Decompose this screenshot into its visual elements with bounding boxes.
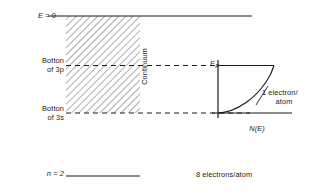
- n-equals-2-label: n = 2: [20, 169, 64, 178]
- fermi-level-label: EF: [195, 59, 219, 70]
- bottom-3s-line1: Botton: [42, 104, 64, 113]
- continuum-hatched-band: [66, 16, 140, 113]
- one-electron-per-atom-label: 1 electron/atom: [262, 88, 320, 106]
- bottom-3s-line2: of 3s: [20, 113, 64, 122]
- continuum-label: Continuum: [140, 35, 149, 99]
- energy-band-dos-figure: E = 0 Bottonof 3p Bottonof 3s Continuum …: [0, 0, 324, 196]
- bottom-3p-line2: of 3p: [20, 65, 64, 74]
- eight-electrons-per-atom-label: 8 electrons/atom: [196, 170, 296, 179]
- dos-axis-label: N(E): [232, 124, 282, 133]
- bottom-3s-label: Bottonof 3s: [20, 104, 64, 122]
- one-electron-line2: atom: [262, 97, 306, 106]
- e-zero-value: = 0: [43, 11, 56, 20]
- one-electron-line1: 1 electron/: [262, 88, 298, 97]
- fermi-subscript: F: [215, 62, 219, 69]
- e-zero-label: E = 0: [16, 11, 56, 20]
- bottom-3p-line1: Botton: [42, 56, 64, 65]
- bottom-3p-label: Bottonof 3p: [20, 56, 64, 74]
